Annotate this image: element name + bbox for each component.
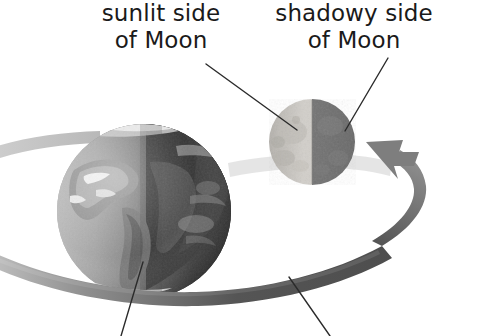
label-shadowy-line2: of Moon — [248, 27, 460, 54]
label-sunlit-line2: of Moon — [62, 27, 260, 54]
shadowy-side-leader — [345, 58, 388, 131]
label-shadowy-line1: shadowy side — [248, 0, 460, 27]
moon-globe — [269, 99, 356, 185]
label-shadowy-side-of-moon: shadowy side of Moon — [248, 0, 460, 54]
earth-globe — [57, 124, 231, 301]
label-sunlit-line1: sunlit side — [62, 0, 260, 27]
diagram-canvas: sunlit side of Moon shadowy side of Moon — [0, 0, 478, 336]
label-sunlit-side-of-moon: sunlit side of Moon — [62, 0, 260, 54]
sunlit-side-leader — [206, 64, 297, 130]
